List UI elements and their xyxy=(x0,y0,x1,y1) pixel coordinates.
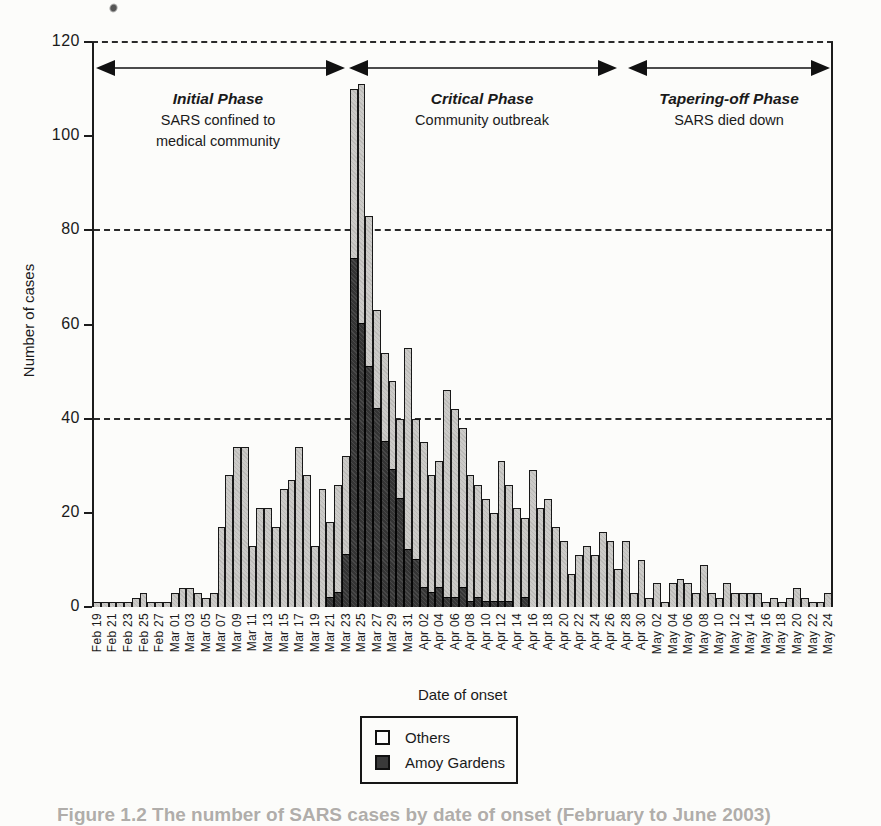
bar-mar-25 xyxy=(358,84,366,607)
bar-mar-10 xyxy=(241,447,249,607)
bar-feb-22 xyxy=(116,602,124,607)
x-axis-title: Date of onset xyxy=(92,686,833,703)
x-tick-label-apr-16: Apr 16 xyxy=(526,613,540,650)
x-tick-label-mar-27: Mar 27 xyxy=(370,613,384,652)
bar-may-22 xyxy=(809,602,817,607)
bar-apr-14 xyxy=(513,508,521,607)
x-tick-label-mar-31: Mar 31 xyxy=(401,613,415,652)
bar-amoy-segment xyxy=(350,258,358,607)
x-tick-label-mar-19: Mar 19 xyxy=(308,613,322,652)
bar-may-16 xyxy=(762,602,770,607)
x-tick-label-may-12: May 12 xyxy=(728,613,742,654)
bar-apr-17 xyxy=(537,508,545,607)
bar-amoy-segment xyxy=(505,601,513,607)
bar-mar-18 xyxy=(303,475,311,607)
y-tick-120 xyxy=(84,41,92,43)
bar-apr-12 xyxy=(498,461,506,607)
bar-mar-21 xyxy=(326,522,334,607)
x-tick-label-may-02: May 02 xyxy=(650,613,664,654)
x-tick-label-mar-13: Mar 13 xyxy=(261,613,275,652)
x-tick-label-feb-27: Feb 27 xyxy=(152,613,166,652)
bar-may-02 xyxy=(653,583,661,607)
bar-may-13 xyxy=(739,593,747,607)
x-tick-label-apr-26: Apr 26 xyxy=(603,613,617,650)
x-tick-label-may-16: May 16 xyxy=(759,613,773,654)
bar-apr-29 xyxy=(630,593,638,607)
x-tick-label-mar-11: Mar 11 xyxy=(245,613,259,651)
x-tick-label-mar-17: Mar 17 xyxy=(292,613,306,652)
bar-apr-16 xyxy=(529,470,537,607)
x-tick-label-apr-04: Apr 04 xyxy=(432,613,446,650)
bar-may-05 xyxy=(677,579,685,607)
bar-apr-10 xyxy=(482,499,490,607)
bar-mar-06 xyxy=(210,593,218,607)
bar-may-06 xyxy=(684,583,692,607)
y-tick-label-60: 60 xyxy=(34,315,80,333)
bar-amoy-segment xyxy=(459,587,467,607)
bar-feb-23 xyxy=(124,602,132,607)
y-tick-label-20: 20 xyxy=(34,503,80,521)
bar-feb-28 xyxy=(163,602,171,607)
bar-mar-23 xyxy=(342,456,350,607)
bar-amoy-segment xyxy=(365,366,373,607)
bar-mar-02 xyxy=(179,588,187,607)
bar-feb-24 xyxy=(132,598,140,607)
x-tick-label-feb-23: Feb 23 xyxy=(121,613,135,652)
bar-apr-21 xyxy=(568,574,576,607)
x-tick-label-may-06: May 06 xyxy=(681,613,695,654)
bar-may-15 xyxy=(754,593,762,607)
bar-mar-22 xyxy=(334,485,342,607)
x-tick-label-apr-12: Apr 12 xyxy=(494,613,508,650)
scan-artifact xyxy=(107,2,119,15)
bar-feb-20 xyxy=(101,602,109,607)
x-tick-label-mar-29: Mar 29 xyxy=(385,613,399,652)
x-tick-label-apr-10: Apr 10 xyxy=(479,613,493,650)
bar-mar-16 xyxy=(288,480,296,607)
bar-mar-20 xyxy=(319,489,327,607)
y-tick-label-80: 80 xyxy=(34,220,80,238)
bar-amoy-segment xyxy=(326,597,334,607)
x-tick-label-apr-08: Apr 08 xyxy=(463,613,477,650)
bar-amoy-segment xyxy=(373,408,381,607)
bar-mar-07 xyxy=(218,527,226,607)
x-tick-label-mar-23: Mar 23 xyxy=(339,613,353,652)
bar-may-24 xyxy=(824,593,832,607)
bar-mar-29 xyxy=(389,381,397,607)
amoy-gardens-swatch-icon xyxy=(375,755,390,770)
bar-apr-07 xyxy=(459,428,467,607)
bar-amoy-segment xyxy=(498,601,506,607)
bar-apr-13 xyxy=(505,485,513,607)
bar-amoy-segment xyxy=(451,597,459,607)
bar-apr-08 xyxy=(467,475,475,607)
y-tick-label-120: 120 xyxy=(34,32,80,50)
bar-may-01 xyxy=(645,598,653,607)
bar-apr-11 xyxy=(490,513,498,607)
bar-amoy-segment xyxy=(381,441,389,607)
x-tick-label-may-22: May 22 xyxy=(806,613,820,654)
bar-may-19 xyxy=(786,598,794,607)
bar-apr-24 xyxy=(591,555,599,607)
y-axis-title: Number of cases xyxy=(20,256,37,386)
x-tick-label-may-18: May 18 xyxy=(774,613,788,654)
bar-amoy-segment xyxy=(443,597,451,607)
bar-mar-26 xyxy=(365,216,373,607)
y-tick-0 xyxy=(84,606,92,608)
bar-amoy-segment xyxy=(467,601,475,607)
y-tick-100 xyxy=(84,135,92,137)
bar-amoy-segment xyxy=(474,597,482,607)
x-tick-label-may-24: May 24 xyxy=(821,613,835,654)
bar-mar-31 xyxy=(404,348,412,607)
y-tick-40 xyxy=(84,418,92,420)
bar-mar-08 xyxy=(225,475,233,607)
bar-apr-30 xyxy=(638,560,646,607)
legend-label: Others xyxy=(405,729,450,746)
phase-annotation-tapering: Tapering-off Phase SARS died down xyxy=(617,88,841,131)
phase-title: Critical Phase xyxy=(370,88,594,110)
bar-feb-19 xyxy=(93,602,101,607)
bar-may-04 xyxy=(669,583,677,607)
bar-may-10 xyxy=(716,598,724,607)
bar-may-03 xyxy=(661,602,669,607)
bar-mar-11 xyxy=(249,546,257,607)
bar-mar-12 xyxy=(256,508,264,607)
y-tick-80 xyxy=(84,229,92,231)
